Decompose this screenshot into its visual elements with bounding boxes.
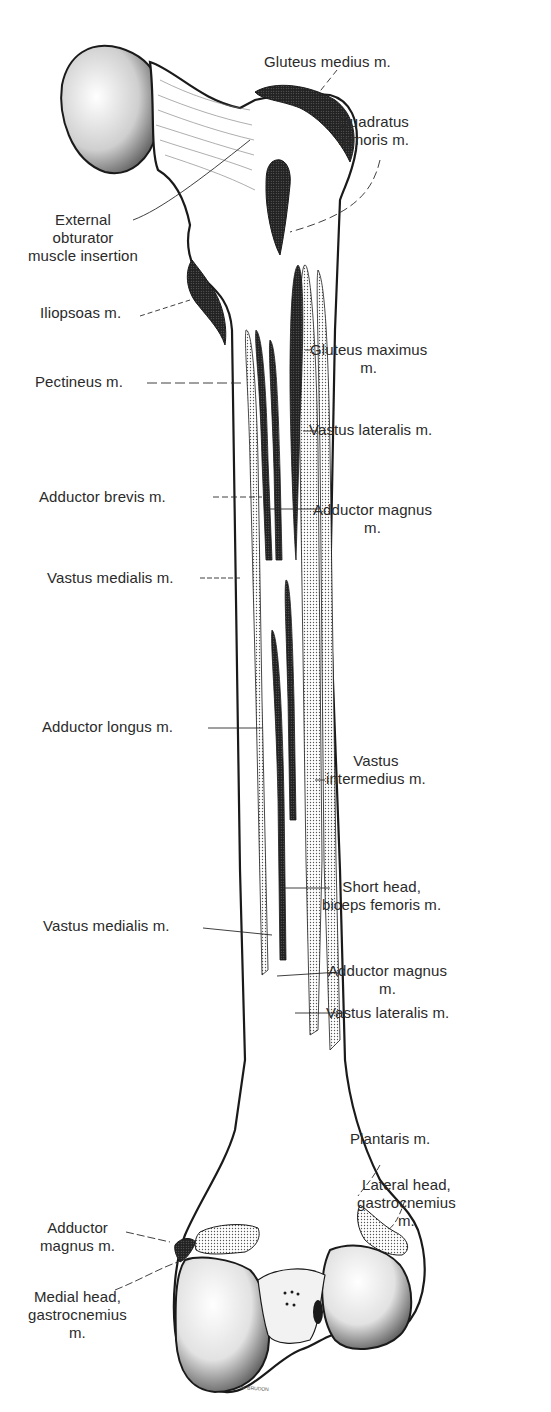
label-vastus-medialis-upper: Vastus medialis m. xyxy=(47,569,174,587)
label-vastus-medialis-lower: Vastus medialis m. xyxy=(43,917,170,935)
label-gluteus-maximus: Gluteus maximus m. xyxy=(310,341,427,377)
label-lateral-head-gastrocnemius: Lateral head, gastrocnemius m. xyxy=(357,1176,456,1230)
label-adductor-magnus-middle: Adductor magnus m. xyxy=(328,962,447,998)
label-adductor-magnus-lower: Adductor magnus m. xyxy=(40,1219,115,1255)
label-adductor-longus: Adductor longus m. xyxy=(42,718,173,736)
label-plantaris: Plantaris m. xyxy=(350,1130,430,1148)
label-external-obturator: External obturator muscle insertion xyxy=(28,211,138,265)
label-adductor-brevis: Adductor brevis m. xyxy=(39,488,166,506)
label-adductor-magnus-upper: Adductor magnus m. xyxy=(313,501,432,537)
medial-condyle xyxy=(176,1258,270,1392)
label-quadratus-femoris: Quadratus femoris m. xyxy=(338,113,409,149)
label-vastus-lateralis-upper: Vastus lateralis m. xyxy=(309,421,432,439)
label-gluteus-medius: Gluteus medius m. xyxy=(264,53,391,71)
label-vastus-intermedius: Vastus intermedius m. xyxy=(326,752,426,788)
label-short-head-biceps: Short head, biceps femoris m. xyxy=(322,878,441,914)
label-medial-head-gastrocnemius: Medial head, gastrocnemius m. xyxy=(28,1288,127,1342)
femoral-head xyxy=(61,46,162,173)
label-vastus-lateralis-lower: Vastus lateralis m. xyxy=(326,1004,449,1022)
label-pectineus: Pectineus m. xyxy=(35,373,123,391)
label-iliopsoas: Iliopsoas m. xyxy=(40,304,121,322)
